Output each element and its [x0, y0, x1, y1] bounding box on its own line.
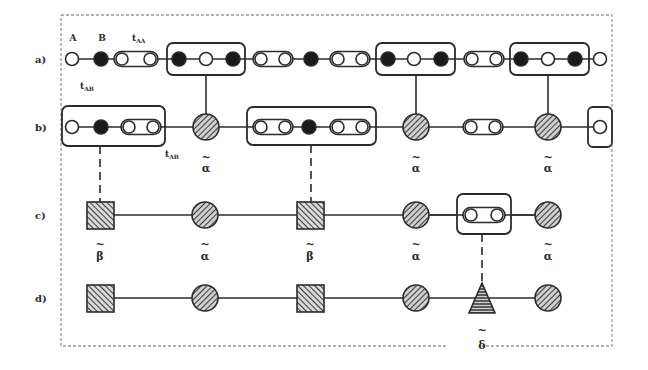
- filled-circle-icon: [568, 52, 582, 66]
- capsule-icon: [121, 120, 161, 135]
- capsule-icon: [463, 208, 505, 223]
- row-d: [87, 283, 561, 313]
- hatched-circle-icon: [192, 202, 218, 228]
- capsule-icon: [464, 52, 504, 67]
- label-tAA: tAA: [132, 33, 146, 44]
- row-a: [66, 43, 607, 115]
- hatched-circle-icon: [403, 285, 429, 311]
- open-circle-icon: [542, 53, 555, 66]
- label-alpha: α: [201, 250, 210, 263]
- filled-circle-icon: [304, 52, 318, 66]
- tilde-mark: ~: [477, 324, 486, 337]
- filled-circle-icon: [514, 52, 528, 66]
- filled-circle-icon: [94, 52, 108, 66]
- filled-circle-icon: [172, 52, 186, 66]
- capsule-icon: [330, 52, 370, 67]
- filled-circle-icon: [302, 120, 316, 134]
- open-circle-icon: [408, 53, 421, 66]
- label-B: B: [98, 33, 106, 43]
- hatched-circle-icon: [535, 285, 561, 311]
- row-b: [62, 106, 612, 202]
- open-circle-icon: [594, 121, 607, 134]
- row-label-a: a): [35, 54, 46, 65]
- hatched-square-icon: [87, 285, 114, 312]
- capsule-icon: [253, 52, 293, 67]
- label-tAB-b: tAB: [165, 149, 179, 160]
- filled-circle-icon: [434, 52, 448, 66]
- open-circle-icon: [66, 121, 79, 134]
- row-label-b: b): [35, 122, 47, 133]
- hatched-square-icon: [87, 202, 114, 229]
- capsule-icon: [463, 120, 503, 135]
- open-circle-icon: [66, 53, 79, 66]
- capsule-icon: [330, 120, 370, 135]
- hatched-circle-icon: [535, 202, 561, 228]
- row-label-d: d): [35, 293, 47, 304]
- hatched-square-icon: [297, 202, 324, 229]
- open-circle-icon: [200, 53, 213, 66]
- hatched-square-icon: [297, 285, 324, 312]
- hatched-circle-icon: [192, 285, 218, 311]
- label-alpha: α: [412, 250, 421, 263]
- label-beta: β: [306, 250, 313, 263]
- hatched-circle-icon: [403, 114, 429, 140]
- label-alpha: α: [544, 162, 553, 175]
- filled-circle-icon: [381, 52, 395, 66]
- label-alpha: α: [202, 162, 211, 175]
- hatched-circle-icon: [535, 114, 561, 140]
- label-alpha: α: [412, 162, 421, 175]
- renormalization-chain-diagram: a) b) c) d): [0, 0, 648, 370]
- hatched-circle-icon: [193, 114, 219, 140]
- hatched-circle-icon: [403, 202, 429, 228]
- row-c: [87, 194, 561, 282]
- label-delta: δ: [478, 339, 485, 352]
- label-alpha: α: [544, 250, 553, 263]
- label-tAB: tAB: [80, 81, 94, 92]
- label-beta: β: [96, 250, 103, 263]
- filled-circle-icon: [226, 52, 240, 66]
- capsule-icon: [114, 52, 158, 67]
- row-label-c: c): [35, 210, 46, 221]
- open-circle-icon: [594, 53, 607, 66]
- label-A: A: [69, 33, 78, 43]
- filled-circle-icon: [94, 120, 108, 134]
- capsule-icon: [253, 120, 293, 135]
